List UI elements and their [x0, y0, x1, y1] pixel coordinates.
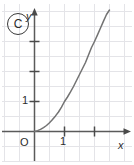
y-axis	[31, 8, 37, 161]
graph-figure-panel-c: C y x O 1 1	[0, 0, 134, 165]
origin-label: O	[20, 137, 29, 148]
x-axis-label: x	[118, 140, 124, 151]
x-axis	[2, 128, 131, 134]
x-axis-tick-label-1: 1	[60, 136, 66, 147]
x-axis-arrow-icon	[124, 128, 132, 134]
y-axis-tick-label-1: 1	[22, 95, 28, 106]
y-axis-label: y	[26, 11, 32, 22]
function-curve	[35, 10, 110, 132]
